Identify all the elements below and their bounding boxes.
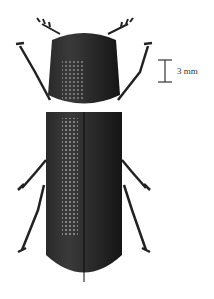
scale-bar	[158, 60, 172, 82]
scale-bar-label: 3 mm	[177, 66, 198, 76]
beetle-illustration: 3 mm	[0, 0, 214, 299]
antennae	[37, 18, 133, 34]
beetle-drawing	[0, 0, 214, 299]
